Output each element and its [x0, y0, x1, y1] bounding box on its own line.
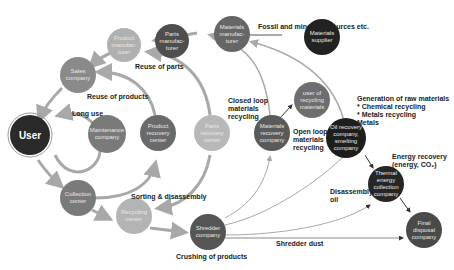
node-final-disposal-company: Final disposal company	[406, 212, 442, 248]
label-generation: Generation of raw materials * Chemical r…	[357, 95, 449, 127]
node-shredder-company: Shredder company	[190, 214, 226, 250]
label-shredder-dust: Shredder dust	[276, 240, 323, 248]
node-materials-manufacturer: Materials manufac- turer	[214, 16, 250, 52]
node-recycling-center: Recycling center	[116, 198, 152, 234]
label-reuse-parts: Reuse of parts	[135, 63, 184, 71]
node-user: User	[10, 115, 50, 155]
label-long-use: Long use	[72, 110, 103, 118]
node-maintenance-company: Maintenance company	[88, 115, 126, 153]
node-parts-recovery-center: Parts recovery center	[194, 115, 230, 151]
label-fossil: Fossil and mineral resources etc.	[258, 23, 369, 31]
node-collection-center: Collection center	[60, 180, 96, 216]
label-disassembly-oil: Disassembly oil	[330, 188, 373, 204]
node-sales-company: Sales company	[60, 57, 96, 93]
label-closed-loop: Closed loop materials recycling	[228, 97, 268, 121]
node-product-recovery-center: Product recovery center	[140, 115, 176, 151]
label-reuse-products: Reuse of products	[87, 93, 148, 101]
label-crushing: Crushing of products	[176, 253, 247, 261]
node-user-of-recycling-materials: user of recycling materials	[294, 82, 330, 118]
node-parts-manufacturer: Parts manufac- turer	[155, 24, 189, 58]
label-energy-recovery: Energy recovery (energy, CO₂)	[392, 153, 447, 169]
node-product-manufacturer: Product manufac- turer	[107, 28, 141, 62]
label-sorting: Sorting & disassembly	[131, 193, 206, 201]
node-thermal-energy-collection-company: Thermal energy collection company	[368, 166, 404, 202]
label-open-loop: Open loop materials recycling	[293, 128, 328, 152]
